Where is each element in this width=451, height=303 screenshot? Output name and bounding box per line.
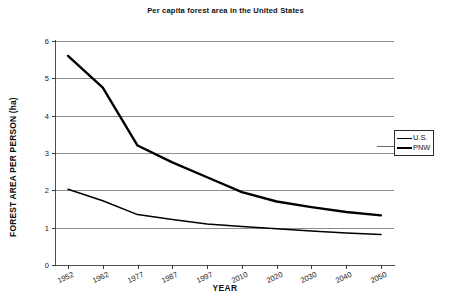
- x-axis-title: YEAR: [56, 283, 394, 293]
- x-tick-mark: [242, 265, 243, 269]
- y-tick-label: 1: [45, 223, 49, 232]
- x-tick-mark: [138, 265, 139, 269]
- legend-swatch-icon: [397, 147, 412, 149]
- x-tick-mark: [172, 265, 173, 269]
- legend-label: U.S.: [413, 133, 427, 143]
- series-line-pnw: [68, 56, 381, 215]
- x-tick-mark: [103, 265, 104, 269]
- x-tick-mark: [207, 265, 208, 269]
- x-tick-mark: [277, 265, 278, 269]
- legend-item-us[interactable]: U.S.: [397, 133, 430, 143]
- chart-title: Per capita forest area in the United Sta…: [0, 6, 451, 15]
- y-tick-label: 4: [45, 111, 49, 120]
- x-tick-mark: [311, 265, 312, 269]
- legend-leader-line: [377, 146, 395, 147]
- y-tick-label: 3: [45, 149, 49, 158]
- plot-area: 0123456 19521962197719871997201020202030…: [56, 41, 394, 265]
- x-axis-line: [55, 265, 395, 266]
- legend-label: PNW: [413, 143, 430, 153]
- y-tick-label: 0: [45, 261, 49, 270]
- y-tick-mark: [52, 265, 56, 266]
- x-tick-mark: [68, 265, 69, 269]
- series-line-us: [68, 189, 381, 234]
- chart-legend[interactable]: U.S.PNW: [394, 130, 434, 156]
- y-tick-label: 2: [45, 186, 49, 195]
- legend-item-pnw[interactable]: PNW: [397, 143, 430, 153]
- legend-swatch-icon: [397, 138, 412, 139]
- chart-figure: Per capita forest area in the United Sta…: [0, 0, 451, 303]
- y-tick-label: 6: [45, 37, 49, 46]
- y-axis-title: FOREST AREA PER PERSON (ha): [8, 55, 22, 279]
- x-tick-mark: [346, 265, 347, 269]
- y-tick-label: 5: [45, 74, 49, 83]
- x-tick-mark: [381, 265, 382, 269]
- series-layer: [56, 41, 394, 265]
